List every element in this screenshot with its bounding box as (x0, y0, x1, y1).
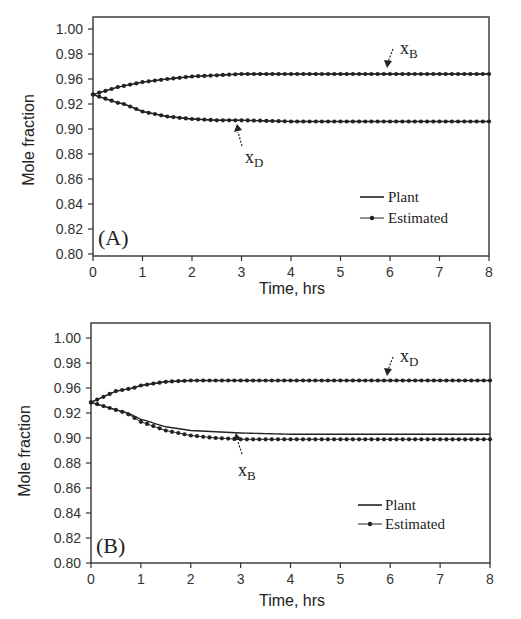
legend-marker-icon (370, 216, 374, 220)
data-marker-icon (289, 119, 293, 123)
data-marker-icon (196, 74, 200, 78)
y-tick-label: 0.98 (54, 355, 81, 371)
data-marker-icon (147, 79, 151, 83)
data-marker-icon (133, 416, 137, 420)
data-marker-icon (103, 97, 107, 101)
data-marker-icon (357, 437, 361, 441)
y-tick-label: 1.00 (56, 21, 83, 37)
data-marker-icon (196, 117, 200, 121)
svg-text:xD: xD (400, 346, 418, 369)
data-marker-icon (357, 72, 361, 76)
data-marker-icon (128, 104, 132, 108)
data-marker-icon (184, 116, 188, 120)
data-marker-icon (481, 72, 485, 76)
chart-b-svg: 1.000.980.960.920.900.880.860.840.820.80… (0, 306, 521, 619)
data-marker-icon (308, 72, 312, 76)
data-marker-icon (288, 378, 292, 382)
data-marker-icon (147, 111, 151, 115)
data-marker-icon (239, 72, 243, 76)
data-marker-icon (226, 437, 230, 441)
data-marker-icon (363, 378, 367, 382)
data-marker-icon (288, 437, 292, 441)
plant-curve (93, 74, 489, 95)
data-marker-icon (110, 87, 114, 91)
panel-label: (B) (96, 533, 125, 558)
data-marker-icon (140, 109, 144, 113)
data-marker-icon (468, 72, 472, 76)
data-marker-icon (388, 72, 392, 76)
data-marker-icon (233, 72, 237, 76)
data-marker-icon (419, 119, 423, 123)
data-marker-icon (469, 437, 473, 441)
data-marker-icon (419, 72, 423, 76)
annotation-sub: D (254, 155, 263, 170)
data-marker-icon (487, 119, 491, 123)
legend: Plant Estimated (360, 189, 448, 226)
data-marker-icon (270, 72, 274, 76)
data-marker-icon (295, 119, 299, 123)
x-axis-title: Time, hrs (259, 280, 325, 297)
data-marker-icon (313, 437, 317, 441)
data-marker-icon (332, 437, 336, 441)
data-marker-icon (209, 74, 213, 78)
data-marker-icon (110, 99, 114, 103)
data-marker-icon (326, 119, 330, 123)
data-marker-icon (326, 378, 330, 382)
data-marker-icon (413, 119, 417, 123)
data-marker-icon (289, 72, 293, 76)
data-marker-icon (114, 389, 118, 393)
data-marker-icon (295, 72, 299, 76)
legend-plant-label: Plant (385, 497, 417, 513)
data-marker-icon (401, 437, 405, 441)
annotation-upper: xB (384, 38, 418, 68)
y-axis-title: Mole fraction (16, 405, 33, 497)
data-marker-icon (338, 119, 342, 123)
data-marker-icon (165, 114, 169, 118)
data-marker-icon (419, 378, 423, 382)
data-marker-icon (126, 387, 130, 391)
y-axis-title: Mole fraction (20, 94, 37, 186)
data-marker-icon (101, 404, 105, 408)
data-marker-icon (338, 437, 342, 441)
data-marker-icon (120, 410, 124, 414)
data-marker-icon (332, 72, 336, 76)
data-marker-icon (376, 72, 380, 76)
data-marker-icon (487, 72, 491, 76)
data-marker-icon (407, 437, 411, 441)
data-marker-icon (108, 406, 112, 410)
svg-text:xB: xB (400, 38, 418, 61)
data-marker-icon (270, 437, 274, 441)
x-tick-label: 2 (188, 264, 196, 280)
x-tick-label: 2 (187, 571, 195, 587)
data-marker-icon (314, 72, 318, 76)
data-marker-icon (382, 378, 386, 382)
data-marker-icon (182, 379, 186, 383)
data-marker-icon (320, 72, 324, 76)
data-marker-icon (189, 433, 193, 437)
data-marker-icon (103, 89, 107, 93)
data-marker-icon (369, 378, 373, 382)
data-marker-icon (475, 119, 479, 123)
data-marker-icon (207, 378, 211, 382)
data-marker-icon (320, 378, 324, 382)
data-marker-icon (153, 79, 157, 83)
chart-a-svg: 1.000.980.960.920.900.880.860.840.820.80… (0, 0, 521, 300)
data-marker-icon (251, 378, 255, 382)
data-marker-icon (277, 72, 281, 76)
data-marker-icon (438, 378, 442, 382)
data-marker-icon (170, 379, 174, 383)
data-marker-icon (239, 118, 243, 122)
data-marker-icon (245, 437, 249, 441)
data-marker-icon (481, 119, 485, 123)
panel-label: (A) (98, 225, 129, 250)
data-marker-icon (401, 378, 405, 382)
data-marker-icon (101, 395, 105, 399)
y-tick-label: 0.90 (54, 430, 81, 446)
data-marker-icon (176, 379, 180, 383)
annotation-lower: xD (234, 124, 263, 170)
y-tick-label: 0.86 (54, 480, 81, 496)
x-tick-label: 6 (386, 264, 394, 280)
data-marker-icon (140, 80, 144, 84)
annotation-main: x (245, 147, 254, 167)
data-marker-icon (326, 72, 330, 76)
